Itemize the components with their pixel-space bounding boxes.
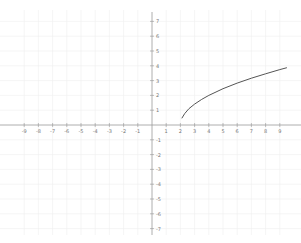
x-tick-label: -3 (107, 128, 112, 134)
x-tick-label: 6 (236, 128, 239, 134)
x-tick-label: 1 (165, 128, 168, 134)
x-tick-label: -7 (50, 128, 55, 134)
x-tick-label: -6 (64, 128, 69, 134)
y-tick-label: 7 (156, 18, 159, 24)
y-tick-label: -3 (156, 166, 161, 172)
data-series (182, 68, 287, 119)
x-tick-label: 7 (250, 128, 253, 134)
y-tick-label: -4 (156, 181, 161, 187)
y-tick-label: 5 (156, 48, 159, 54)
x-tick-label: 3 (193, 128, 196, 134)
x-tick-label: -2 (121, 128, 126, 134)
plot-canvas: -9-8-7-6-5-4-3-2-1123456789-7-6-5-4-3-2-… (0, 0, 301, 243)
x-tick-label: 8 (264, 128, 267, 134)
y-tick-label: 1 (156, 107, 159, 113)
y-tick-label: -2 (156, 152, 161, 158)
x-tick-label: -5 (79, 128, 84, 134)
y-tick-label: 2 (156, 92, 159, 98)
x-tick-label: -4 (93, 128, 98, 134)
axes (0, 12, 301, 235)
grid-lines (0, 10, 301, 235)
x-tick-label: -8 (36, 128, 41, 134)
y-tick-label: 4 (156, 63, 159, 69)
y-tick-label: -7 (156, 226, 161, 232)
x-tick-label: 2 (179, 128, 182, 134)
y-tick-label: -5 (156, 196, 161, 202)
x-tick-label: -9 (22, 128, 27, 134)
y-tick-label: 6 (156, 33, 159, 39)
x-tick-label: -1 (135, 128, 140, 134)
function-plot: -9-8-7-6-5-4-3-2-1123456789-7-6-5-4-3-2-… (0, 0, 301, 243)
y-tick-label: -1 (156, 137, 161, 143)
x-tick-label: 5 (221, 128, 224, 134)
x-tick-label: 4 (207, 128, 210, 134)
y-tick-label: 3 (156, 78, 159, 84)
y-tick-label: -6 (156, 211, 161, 217)
curve-line (182, 68, 287, 119)
x-tick-label: 9 (278, 128, 281, 134)
